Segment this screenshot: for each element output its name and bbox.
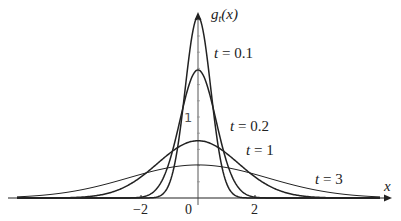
label-t-3: t = 3 bbox=[315, 171, 343, 187]
y-tick-label-1: 1 bbox=[184, 110, 192, 125]
heat-kernel-chart: gt(x) x t = 0.1 t = 0.2 t = 1 t = 3 −2 0… bbox=[0, 0, 401, 221]
y-axis-label: gt(x) bbox=[211, 6, 238, 24]
y-minor-ticks bbox=[197, 20, 200, 182]
x-axis-arrow-icon bbox=[384, 195, 392, 202]
x-tick-label-2: 2 bbox=[251, 202, 258, 217]
x-axis-label: x bbox=[383, 178, 391, 194]
x-tick-label-0: 0 bbox=[185, 202, 192, 217]
label-t-0-1: t = 0.1 bbox=[214, 45, 253, 61]
label-t-0-2: t = 0.2 bbox=[230, 118, 269, 134]
label-t-1: t = 1 bbox=[246, 142, 274, 158]
x-tick-label-minus-2: −2 bbox=[133, 202, 148, 217]
